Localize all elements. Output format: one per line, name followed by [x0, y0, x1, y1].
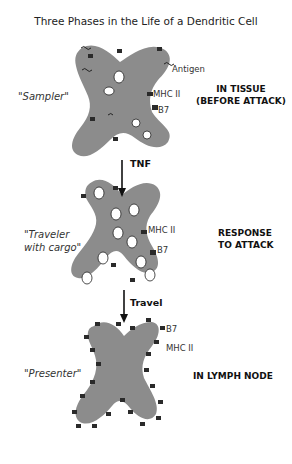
b7-label-1: B7 — [158, 105, 169, 115]
mhc-label-1: MHC II — [153, 89, 180, 99]
sampler-cell — [72, 45, 170, 156]
presenter-nickname: "Presenter" — [24, 368, 81, 379]
mhc-label-3: MHC II — [166, 343, 193, 353]
traveler-line2: with cargo" — [24, 241, 81, 254]
b7-label-2: B7 — [157, 245, 168, 255]
travel-label: Travel — [130, 297, 162, 308]
phase-1-location: IN TISSUE (BEFORE ATTACK) — [196, 83, 286, 107]
antigen-label: Antigen — [172, 64, 205, 74]
phase-2-location: RESPONSE TO ATTACK — [218, 227, 274, 251]
traveler-nickname: "Traveler with cargo" — [24, 228, 81, 254]
phase-2-line2: TO ATTACK — [218, 239, 274, 251]
traveler-line1: "Traveler — [24, 228, 81, 241]
phase-2-line1: RESPONSE — [218, 227, 274, 239]
mhc-label-2: MHC II — [148, 225, 175, 235]
b7-label-3: B7 — [166, 324, 177, 334]
phase-1-line2: (BEFORE ATTACK) — [196, 95, 286, 107]
phase-3-location: IN LYMPH NODE — [193, 370, 273, 382]
phase-1-line1: IN TISSUE — [196, 83, 286, 95]
sampler-nickname: "Sampler" — [18, 91, 69, 102]
tnf-label: TNF — [130, 158, 151, 169]
